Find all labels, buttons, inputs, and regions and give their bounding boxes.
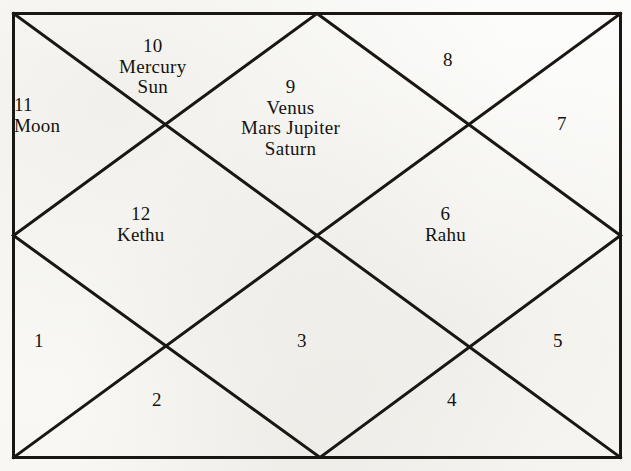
house-10: 10 Mercury Sun xyxy=(119,36,187,98)
house-11: 11 Moon xyxy=(14,95,60,136)
house-9-planet-venus: Venus xyxy=(241,98,340,119)
house-4: 4 xyxy=(447,390,457,411)
house-8: 8 xyxy=(443,50,453,71)
house-9: 9 Venus Mars Jupiter Saturn xyxy=(241,77,340,159)
house-6-number: 6 xyxy=(425,204,466,225)
house-11-planet-moon: Moon xyxy=(14,116,60,137)
house-12-number: 12 xyxy=(117,204,164,225)
house-5: 5 xyxy=(553,331,563,352)
house-7: 7 xyxy=(557,114,567,135)
house-9-planet-saturn: Saturn xyxy=(241,139,340,160)
chart-grid xyxy=(0,0,631,471)
house-4-number: 4 xyxy=(447,390,457,411)
house-12-planet-kethu: Kethu xyxy=(117,225,164,246)
house-6-planet-rahu: Rahu xyxy=(425,225,466,246)
house-1-number: 1 xyxy=(34,331,44,352)
house-7-number: 7 xyxy=(557,114,567,135)
birth-chart-page: 1 2 3 4 5 6 Rahu 7 8 9 Venus Mars Jupite… xyxy=(0,0,631,471)
house-6: 6 Rahu xyxy=(425,204,466,245)
house-2-number: 2 xyxy=(152,390,162,411)
house-12: 12 Kethu xyxy=(117,204,164,245)
house-5-number: 5 xyxy=(553,331,563,352)
house-10-planet-mercury: Mercury xyxy=(119,57,187,78)
house-8-number: 8 xyxy=(443,50,453,71)
house-10-planet-sun: Sun xyxy=(119,77,187,98)
house-9-number: 9 xyxy=(241,77,340,98)
house-9-planets-mars-jupiter: Mars Jupiter xyxy=(241,118,340,139)
house-1: 1 xyxy=(34,331,44,352)
house-11-number: 11 xyxy=(14,95,60,116)
house-3: 3 xyxy=(297,331,307,352)
house-3-number: 3 xyxy=(297,331,307,352)
house-10-number: 10 xyxy=(119,36,187,57)
house-2: 2 xyxy=(152,390,162,411)
